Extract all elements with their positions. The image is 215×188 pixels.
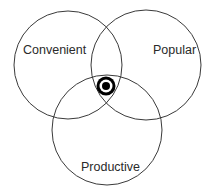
label-productive: Productive xyxy=(81,160,140,174)
venn-diagram: Convenient Popular Productive xyxy=(0,0,215,188)
target-icon xyxy=(97,77,116,96)
label-popular: Popular xyxy=(153,43,196,57)
label-convenient: Convenient xyxy=(23,43,87,57)
circle-popular xyxy=(91,10,201,120)
